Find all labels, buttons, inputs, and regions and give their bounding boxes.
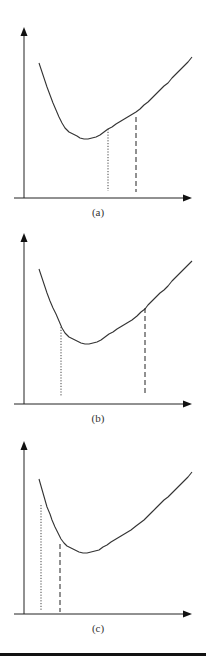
panel-label-b: (b) bbox=[92, 412, 105, 425]
panel-b: (b) bbox=[14, 233, 192, 425]
x-axis-arrow-icon bbox=[183, 195, 192, 202]
bottom-rule-divider bbox=[0, 653, 206, 656]
panel-c: (c) bbox=[14, 441, 192, 635]
panel-label-a: (a) bbox=[92, 206, 105, 219]
y-axis-arrow-icon bbox=[21, 27, 28, 36]
panel-label-c: (c) bbox=[92, 622, 105, 635]
y-axis-arrow-icon bbox=[21, 233, 28, 242]
u-curve bbox=[39, 472, 192, 553]
x-axis-arrow-icon bbox=[183, 611, 192, 618]
figure: (a) (b) (c) bbox=[0, 0, 206, 664]
x-axis-arrow-icon bbox=[183, 401, 192, 408]
u-curve bbox=[39, 261, 192, 344]
u-curve bbox=[39, 57, 192, 139]
panel-a: (a) bbox=[14, 27, 192, 219]
y-axis-arrow-icon bbox=[21, 441, 28, 450]
